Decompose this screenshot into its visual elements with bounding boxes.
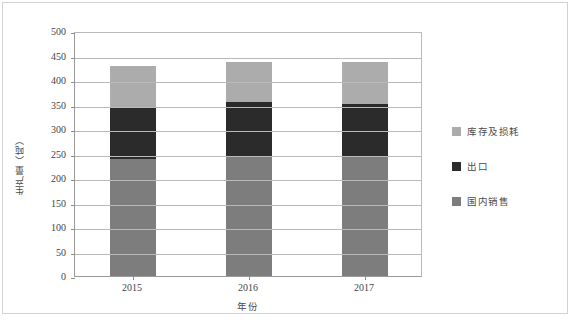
- bar-segment[interactable]: [226, 156, 272, 276]
- y-axis-tick-labels: 500450400350300250200150100500: [34, 32, 70, 277]
- bar-segment[interactable]: [110, 66, 156, 107]
- bar-group[interactable]: [110, 31, 156, 276]
- gridline: [75, 131, 421, 132]
- y-axis-tick-mark: [71, 205, 75, 206]
- y-axis-tick-label: 300: [51, 125, 66, 135]
- chart-legend: 库存及损耗出口国内销售: [452, 124, 562, 229]
- gridline: [75, 156, 421, 157]
- legend-item[interactable]: 出口: [452, 159, 562, 173]
- y-axis-tick-mark: [71, 254, 75, 255]
- gridline: [75, 180, 421, 181]
- chart-container: 生产量（吨） 500450400350300250200150100500 20…: [0, 0, 573, 333]
- gridline: [75, 254, 421, 255]
- x-axis-tick-mark: [365, 276, 366, 280]
- y-axis-tick-mark: [71, 82, 75, 83]
- y-axis-tick-label: 200: [51, 174, 66, 184]
- y-axis-tick-label: 400: [51, 76, 66, 86]
- y-axis-tick-mark: [71, 58, 75, 59]
- x-axis-tick-label: 2017: [354, 282, 374, 294]
- y-axis-tick-mark: [71, 278, 75, 279]
- y-axis-tick-label: 250: [51, 150, 66, 160]
- gridline: [75, 205, 421, 206]
- legend-swatch-icon: [452, 127, 461, 136]
- bar-segment[interactable]: [110, 107, 156, 159]
- y-axis-tick-label: 450: [51, 52, 66, 62]
- y-axis-tick-label: 100: [51, 223, 66, 233]
- legend-label: 出口: [467, 159, 488, 173]
- y-axis-title: 生产量（吨）: [4, 120, 34, 210]
- y-axis-tick-mark: [71, 180, 75, 181]
- gridline: [75, 229, 421, 230]
- y-axis-tick-mark: [71, 107, 75, 108]
- gridline: [75, 58, 421, 59]
- bar-segment[interactable]: [226, 102, 272, 156]
- y-axis-tick-label: 50: [56, 248, 66, 258]
- bar-group[interactable]: [342, 31, 388, 276]
- gridline: [75, 107, 421, 108]
- y-axis-tick-mark: [71, 229, 75, 230]
- y-axis-tick-label: 350: [51, 101, 66, 111]
- y-axis-tick-mark: [71, 33, 75, 34]
- legend-item[interactable]: 库存及损耗: [452, 124, 562, 138]
- legend-swatch-icon: [452, 162, 461, 171]
- x-axis-title: 年份: [74, 299, 422, 313]
- bar-segment[interactable]: [342, 104, 388, 156]
- bar-group[interactable]: [226, 31, 272, 276]
- x-axis-tick-mark: [133, 276, 134, 280]
- y-axis-tick-label: 500: [51, 27, 66, 37]
- bar-segment[interactable]: [342, 156, 388, 276]
- x-axis-tick-label: 2015: [122, 282, 142, 294]
- bar-segment[interactable]: [110, 159, 156, 276]
- legend-item[interactable]: 国内销售: [452, 194, 562, 208]
- legend-label: 库存及损耗: [467, 124, 520, 138]
- x-axis-tick-mark: [249, 276, 250, 280]
- legend-label: 国内销售: [467, 194, 509, 208]
- y-axis-tick-mark: [71, 156, 75, 157]
- gridline: [75, 82, 421, 83]
- x-axis-tick-label: 2016: [238, 282, 258, 294]
- y-axis-tick-label: 150: [51, 199, 66, 209]
- x-axis-tick-labels: 201520162017: [74, 282, 422, 296]
- plot-area: [74, 32, 422, 277]
- y-axis-tick-label: 0: [61, 272, 66, 282]
- bars-layer: [75, 33, 421, 276]
- legend-swatch-icon: [452, 197, 461, 206]
- y-axis-tick-mark: [71, 131, 75, 132]
